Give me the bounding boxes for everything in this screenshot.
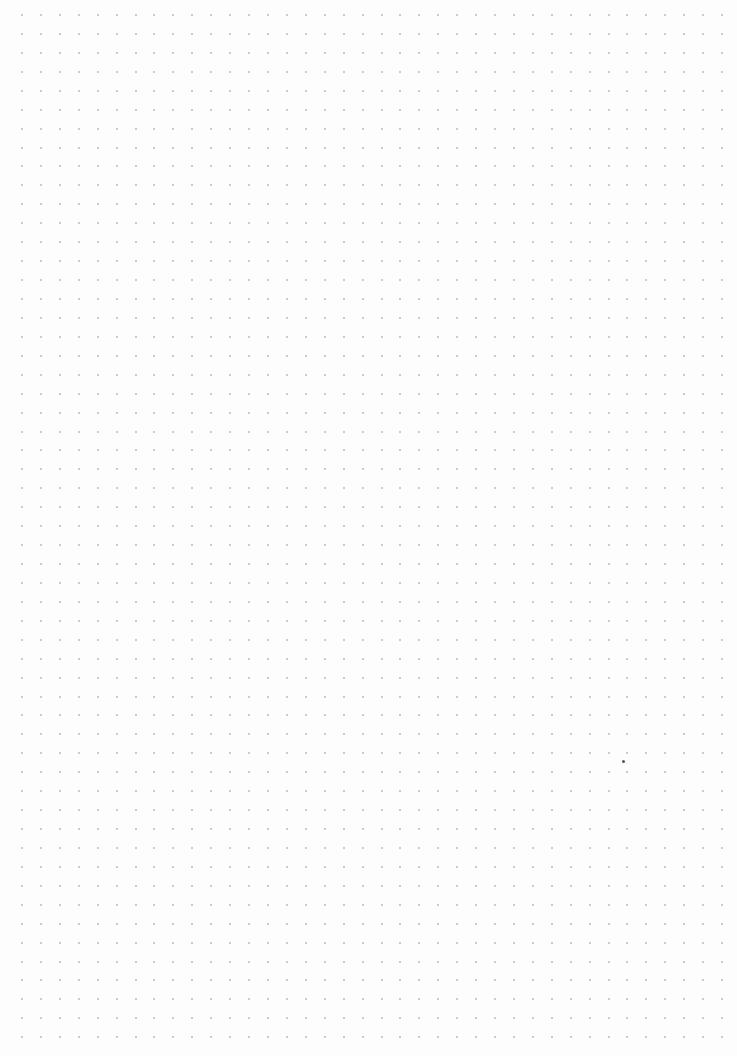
grid-dot [210,260,212,262]
grid-dot [267,771,269,773]
grid-dot [229,961,231,963]
grid-dot [456,733,458,735]
grid-dot [456,260,458,262]
grid-dot [305,885,307,887]
grid-dot [78,260,80,262]
grid-dot [475,1017,477,1019]
grid-dot [532,241,534,243]
grid-dot [305,52,307,54]
grid-dot [494,733,496,735]
grid-dot [721,961,723,963]
grid-dot [381,923,383,925]
grid-dot [645,809,647,811]
grid-dot [248,52,250,54]
grid-dot [475,393,477,395]
grid-dot [437,582,439,584]
grid-dot [532,487,534,489]
grid-dot [153,790,155,792]
grid-dot [286,714,288,716]
grid-dot [40,184,42,186]
grid-dot [551,809,553,811]
grid-dot [116,449,118,451]
grid-dot [78,1017,80,1019]
grid-dot [267,393,269,395]
grid-dot [116,828,118,830]
grid-dot [513,184,515,186]
grid-dot [381,222,383,224]
grid-dot [267,147,269,149]
grid-dot [153,468,155,470]
grid-dot [172,1036,174,1038]
grid-dot [135,809,137,811]
grid-dot [305,506,307,508]
grid-dot [229,109,231,111]
grid-dot [626,431,628,433]
grid-dot [286,677,288,679]
grid-dot [589,298,591,300]
grid-dot [456,71,458,73]
grid-dot [683,904,685,906]
grid-dot [608,677,610,679]
grid-dot [78,33,80,35]
grid-dot [305,90,307,92]
grid-dot [135,336,137,338]
grid-dot [475,506,477,508]
grid-dot [513,733,515,735]
grid-dot [191,374,193,376]
grid-dot [343,1017,345,1019]
grid-dot [324,639,326,641]
grid-dot [532,317,534,319]
grid-dot [664,677,666,679]
grid-dot [645,544,647,546]
grid-dot [362,544,364,546]
grid-dot [513,241,515,243]
grid-dot [153,52,155,54]
grid-dot [702,923,704,925]
grid-dot [267,866,269,868]
grid-dot [570,184,572,186]
grid-dot [305,1017,307,1019]
grid-dot [494,468,496,470]
grid-dot [589,979,591,981]
grid-dot [21,279,23,281]
grid-dot [589,620,591,622]
grid-dot [683,355,685,357]
grid-dot [513,771,515,773]
grid-dot [475,771,477,773]
grid-dot [608,355,610,357]
grid-dot [191,885,193,887]
grid-dot [532,677,534,679]
grid-dot [248,923,250,925]
grid-dot [305,355,307,357]
grid-dot [135,620,137,622]
grid-dot [626,525,628,527]
grid-dot [664,355,666,357]
grid-dot [305,260,307,262]
grid-dot [608,374,610,376]
grid-dot [153,71,155,73]
grid-dot [40,90,42,92]
grid-dot [305,525,307,527]
grid-dot [664,449,666,451]
grid-dot [324,449,326,451]
grid-dot [343,165,345,167]
grid-dot [286,544,288,546]
grid-dot [399,942,401,944]
grid-dot [21,449,23,451]
grid-dot [494,828,496,830]
grid-dot [267,1036,269,1038]
grid-dot [418,1017,420,1019]
grid-dot [97,222,99,224]
grid-dot [702,184,704,186]
grid-dot [248,374,250,376]
grid-dot [116,468,118,470]
grid-dot [437,165,439,167]
grid-dot [551,431,553,433]
grid-dot [229,487,231,489]
grid-dot [248,979,250,981]
grid-dot [153,147,155,149]
grid-dot [153,128,155,130]
grid-dot [702,336,704,338]
grid-dot [40,714,42,716]
grid-dot [381,33,383,35]
